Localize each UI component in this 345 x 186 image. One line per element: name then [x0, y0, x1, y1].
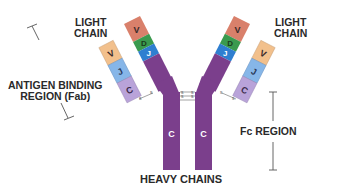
- svg-text:s: s: [220, 89, 223, 95]
- light-chain-label-left-line2: CHAIN: [74, 28, 107, 39]
- fab-region-label: ANTIGEN BINDING REGION (Fab): [8, 80, 103, 102]
- svg-text:D: D: [141, 39, 147, 48]
- antibody-diagram: V D J C V D J C: [0, 0, 345, 186]
- svg-text:J: J: [223, 49, 227, 58]
- svg-text:s: s: [150, 89, 153, 95]
- disulfide-bonds: ss ss ss ss: [139, 89, 236, 101]
- svg-text:D: D: [227, 39, 233, 48]
- svg-text:C: C: [168, 129, 175, 139]
- heavy-chains-label: HEAVY CHAINS: [140, 174, 222, 185]
- light-chain-label-right: LIGHT CHAIN: [274, 17, 307, 39]
- left-light-chain: V J C: [99, 40, 141, 103]
- svg-text:J: J: [147, 49, 151, 58]
- fab-region-label-line2: REGION (Fab): [8, 91, 103, 102]
- fab-bracket: [27, 24, 74, 120]
- light-chain-label-right-line2: CHAIN: [274, 28, 307, 39]
- svg-text:C: C: [200, 129, 207, 139]
- fc-region-label: Fc REGION: [240, 126, 297, 137]
- svg-text:V: V: [134, 25, 140, 35]
- light-chain-label-left: LIGHT CHAIN: [74, 17, 107, 39]
- right-light-chain: V J C: [233, 40, 275, 103]
- svg-text:V: V: [234, 25, 240, 35]
